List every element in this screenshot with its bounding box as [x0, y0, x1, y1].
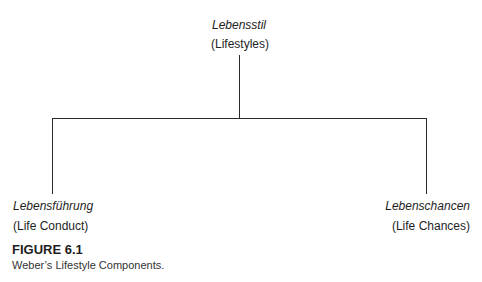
child-translation-right: (Life Chances): [392, 219, 470, 233]
left-connector: [52, 118, 53, 194]
figure-caption-text: Weber’s Lifestyle Components.: [12, 259, 164, 271]
figure-label: FIGURE 6.1: [12, 242, 83, 257]
root-term: Lebensstil: [0, 18, 480, 32]
child-term-left: Lebensführung: [13, 199, 93, 213]
root-connector: [239, 55, 240, 119]
right-connector: [426, 118, 427, 194]
root-translation: (Lifestyles): [0, 37, 481, 51]
child-translation-left: (Life Conduct): [13, 219, 88, 233]
horizontal-connector: [52, 118, 427, 119]
child-term-right: Lebenschancen: [385, 199, 470, 213]
